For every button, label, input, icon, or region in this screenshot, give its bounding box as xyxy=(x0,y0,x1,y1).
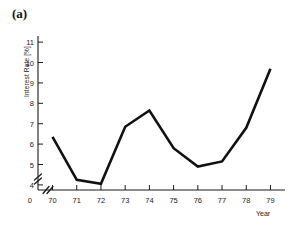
y-tick-label: 9 xyxy=(30,79,34,88)
x-tick-label: 78 xyxy=(242,196,250,205)
figure-panel: (a) Interest Rate [%] Year 4567891011 70… xyxy=(0,0,293,228)
y-tick-label: 5 xyxy=(30,161,34,170)
x-tick-label: 74 xyxy=(145,196,153,205)
y-tick-label: 7 xyxy=(30,120,34,129)
y-axis-tick-labels: 4567891011 xyxy=(26,38,34,190)
x-tick-label: 73 xyxy=(121,196,129,205)
x-tick-label: 72 xyxy=(97,196,105,205)
x-tick-label: 70 xyxy=(48,196,56,205)
axis-break-marks xyxy=(35,174,54,194)
interest-rate-line xyxy=(53,69,271,184)
x-tick-label: 75 xyxy=(169,196,177,205)
x-axis-tick-labels: 70717273747576777879 xyxy=(48,196,274,205)
line-chart-plot: 4567891011 70717273747576777879 0 xyxy=(0,0,293,228)
x-axis-tick-marks xyxy=(53,185,271,190)
axis-lines xyxy=(38,36,285,190)
x-tick-label: 77 xyxy=(218,196,226,205)
y-tick-label: 8 xyxy=(30,99,34,108)
y-axis-tick-marks xyxy=(38,42,43,185)
y-tick-label: 10 xyxy=(26,59,34,68)
y-tick-label: 6 xyxy=(30,140,34,149)
y-tick-label: 4 xyxy=(30,181,34,190)
origin-tick-label: 0 xyxy=(28,196,32,205)
x-tick-label: 76 xyxy=(194,196,202,205)
origin-label: 0 xyxy=(28,196,32,205)
x-tick-label: 79 xyxy=(266,196,274,205)
x-tick-label: 71 xyxy=(73,196,81,205)
y-tick-label: 11 xyxy=(26,38,34,47)
